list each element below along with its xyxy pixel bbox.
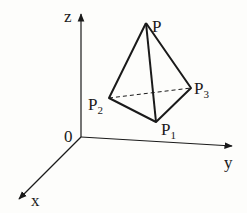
edge-p-p1 — [146, 23, 156, 122]
x-axis — [19, 137, 81, 199]
point-p-label: P — [152, 17, 161, 36]
point-p1-label: P1 — [161, 120, 176, 141]
y-axis-label: y — [224, 153, 233, 172]
point-p2-label: P2 — [88, 95, 103, 116]
z-axis-label: z — [64, 7, 72, 26]
point-p3-label: P3 — [194, 79, 209, 100]
y-axis — [81, 137, 232, 146]
edge-p2-p3-hidden — [109, 88, 191, 98]
origin-label: 0 — [64, 127, 73, 146]
x-axis-label: x — [31, 191, 40, 210]
tetrahedron-diagram: z y x 0 P P1 P2 P3 — [0, 0, 247, 213]
